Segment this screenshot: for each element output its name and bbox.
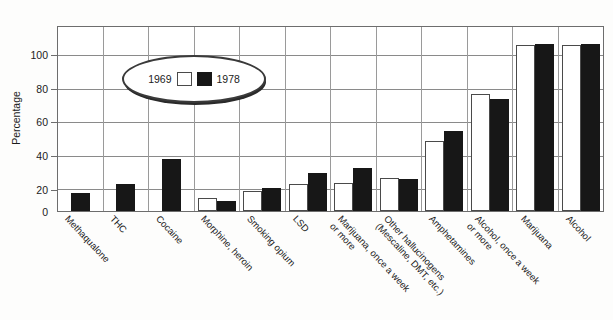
bar-1978 bbox=[71, 193, 90, 211]
legend-label-1978: 1978 bbox=[217, 73, 240, 85]
x-tick-label: Methaqualone bbox=[62, 213, 111, 265]
chart-legend: 1969 1978 bbox=[122, 55, 266, 103]
y-axis: Percentage 100 80 60 40 20 0 bbox=[0, 26, 57, 212]
y-tick-label-60: 60 bbox=[36, 117, 48, 128]
bar-1969 bbox=[425, 141, 444, 211]
bar-1969 bbox=[334, 183, 353, 211]
bar-1978 bbox=[444, 131, 463, 211]
x-tick-label: Alcohol bbox=[564, 213, 593, 243]
bar-groups bbox=[58, 27, 603, 211]
white-square-icon bbox=[177, 72, 192, 86]
bar-group bbox=[422, 27, 468, 211]
legend-label-1969: 1969 bbox=[148, 73, 171, 85]
bar-1978 bbox=[217, 201, 236, 211]
bar-1978 bbox=[535, 44, 554, 211]
bar-group bbox=[468, 27, 514, 211]
x-tick-label: LSD bbox=[290, 213, 311, 234]
bar-group bbox=[286, 27, 332, 211]
x-tick-label: Marijuana bbox=[518, 213, 555, 251]
bar-1978 bbox=[262, 188, 281, 211]
y-tick-label-80: 80 bbox=[36, 83, 48, 94]
x-tick-label: Cocaine bbox=[154, 213, 186, 246]
x-tick-label: Smoking opium bbox=[245, 213, 298, 269]
bar-1969 bbox=[471, 94, 490, 211]
bar-1978 bbox=[162, 159, 181, 211]
black-square-icon bbox=[197, 72, 212, 86]
bar-1969 bbox=[289, 184, 308, 211]
bar-1978 bbox=[399, 179, 418, 211]
y-tick-label-20: 20 bbox=[36, 185, 48, 196]
bar-1969 bbox=[243, 191, 262, 211]
bar-1978 bbox=[581, 44, 600, 211]
bar-group bbox=[240, 27, 286, 211]
y-tick-label-40: 40 bbox=[36, 151, 48, 162]
y-tick-label-100: 100 bbox=[30, 49, 48, 60]
chart-container: Percentage 100 80 60 40 20 0 1969 1978 M… bbox=[0, 0, 613, 320]
bar-group bbox=[331, 27, 377, 211]
x-tick-label: THC bbox=[108, 213, 130, 235]
x-axis-labels: MethaqualoneTHCCocaineMorphine, heroinSm… bbox=[57, 213, 604, 318]
y-tick-label-0: 0 bbox=[42, 207, 48, 218]
bar-1969 bbox=[380, 178, 399, 211]
bar-1969 bbox=[516, 45, 535, 211]
bar-1969 bbox=[198, 198, 217, 211]
bar-1978 bbox=[116, 184, 135, 211]
bar-1978 bbox=[353, 168, 372, 211]
bar-1978 bbox=[308, 173, 327, 211]
bar-1978 bbox=[490, 99, 509, 211]
y-axis-title: Percentage bbox=[10, 68, 22, 168]
bar-1969 bbox=[562, 45, 581, 211]
plot-area: 1969 1978 bbox=[57, 26, 604, 212]
bar-group bbox=[513, 27, 559, 211]
bar-group bbox=[377, 27, 423, 211]
bar-group bbox=[104, 27, 150, 211]
bar-group bbox=[58, 27, 104, 211]
bar-group bbox=[559, 27, 604, 211]
